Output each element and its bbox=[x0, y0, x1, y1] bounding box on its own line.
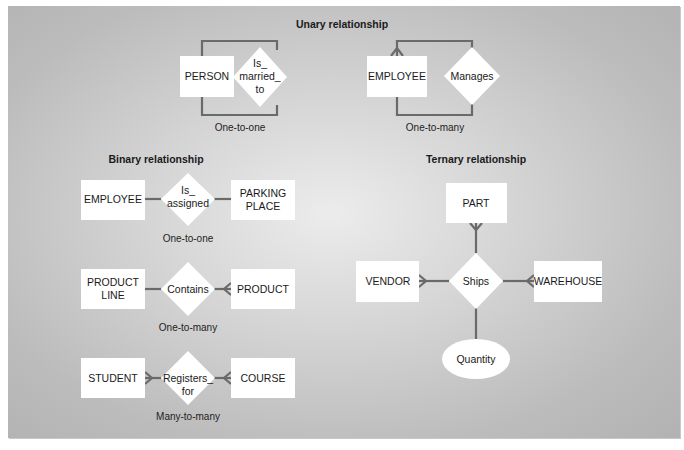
entity-label: STUDENT bbox=[88, 372, 138, 384]
entity-label: PART bbox=[462, 197, 490, 209]
attribute-label: Quantity bbox=[456, 353, 496, 365]
relationship-label: for bbox=[182, 385, 195, 397]
entity-label: VENDOR bbox=[366, 275, 411, 287]
unary-title: Unary relationship bbox=[296, 18, 388, 30]
relationship-label: Registers_ bbox=[163, 372, 213, 384]
entity-label: EMPLOYEE bbox=[368, 70, 426, 82]
relationship-label: Is_ bbox=[181, 184, 195, 196]
er-diagram: Unary relationship Binary relationship T… bbox=[0, 0, 684, 450]
cardinality-label: One-to-one bbox=[215, 122, 266, 133]
entity-label: PERSON bbox=[185, 70, 229, 82]
relationship-label: Ships bbox=[463, 275, 489, 287]
relationship-label: assigned bbox=[167, 197, 209, 209]
cardinality-label: One-to-many bbox=[406, 122, 464, 133]
unary2-bottom-line bbox=[397, 97, 472, 115]
relationship-label: married_ bbox=[239, 70, 281, 82]
relationship-label: Is_ bbox=[253, 57, 267, 69]
entity-label: EMPLOYEE bbox=[84, 193, 142, 205]
relationship-label: Manages bbox=[450, 70, 493, 82]
cardinality-label: One-to-one bbox=[163, 233, 214, 244]
cardinality-label: Many-to-many bbox=[156, 411, 220, 422]
entity-label: PLACE bbox=[246, 200, 280, 212]
entity-label: PRODUCT bbox=[87, 276, 140, 288]
unary2-top-line bbox=[397, 41, 472, 56]
entity-label: LINE bbox=[101, 289, 124, 301]
entity-label: PARKING bbox=[240, 187, 286, 199]
relationship-label: Contains bbox=[167, 283, 208, 295]
entity-label: COURSE bbox=[241, 372, 286, 384]
ternary-title: Ternary relationship bbox=[426, 153, 526, 165]
entity-label: PRODUCT bbox=[237, 283, 290, 295]
relationship-label: to bbox=[256, 83, 265, 95]
entity-label: WAREHOUSE bbox=[534, 275, 602, 287]
cardinality-label: One-to-many bbox=[159, 322, 217, 333]
binary-title: Binary relationship bbox=[108, 153, 203, 165]
